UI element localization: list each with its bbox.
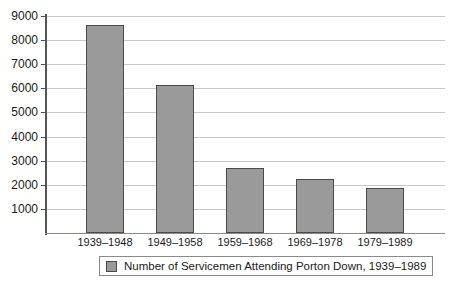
x-tick-label-1959-1968: 1959–1968 [205, 236, 285, 249]
y-axis-line [45, 14, 47, 235]
gridline-9000 [47, 16, 445, 17]
y-tick-label-5000: 5000 [2, 106, 38, 118]
y-tick-mark [41, 88, 47, 89]
x-tick-label-1979-1989: 1979–1989 [345, 236, 425, 249]
y-tick-mark [41, 64, 47, 65]
y-tick-label-9000: 9000 [2, 10, 38, 22]
y-tick-mark [41, 40, 47, 41]
bar-1959-1968 [226, 168, 264, 233]
x-tick-label-1939-1948: 1939–1948 [65, 236, 145, 249]
y-tick-mark [41, 161, 47, 162]
y-tick-label-6000: 6000 [2, 82, 38, 94]
y-tick-label-3000: 3000 [2, 155, 38, 167]
bar-chart-figure: 9000 8000 7000 6000 5000 4000 3000 2000 … [0, 0, 456, 294]
y-tick-label-2000: 2000 [2, 179, 38, 191]
y-tick-label-4000: 4000 [2, 131, 38, 143]
y-tick-mark [41, 112, 47, 113]
y-tick-label-1000: 1000 [2, 203, 38, 215]
y-tick-mark [41, 137, 47, 138]
x-axis-line [45, 233, 445, 234]
y-tick-mark [41, 16, 47, 17]
bar-1939-1948 [86, 25, 124, 234]
y-tick-mark [41, 209, 47, 210]
chart-legend: Number of Servicemen Attending Porton Do… [99, 256, 433, 276]
legend-swatch-icon [106, 261, 117, 272]
y-tick-mark [41, 185, 47, 186]
y-tick-label-7000: 7000 [2, 58, 38, 70]
bar-1949-1958 [156, 85, 194, 233]
x-tick-label-1949-1958: 1949–1958 [135, 236, 215, 249]
y-tick-label-8000: 8000 [2, 34, 38, 46]
x-tick-label-1969-1978: 1969–1978 [275, 236, 355, 249]
bar-1969-1978 [296, 179, 334, 233]
bar-1979-1989 [366, 188, 404, 233]
legend-label: Number of Servicemen Attending Porton Do… [124, 260, 426, 273]
